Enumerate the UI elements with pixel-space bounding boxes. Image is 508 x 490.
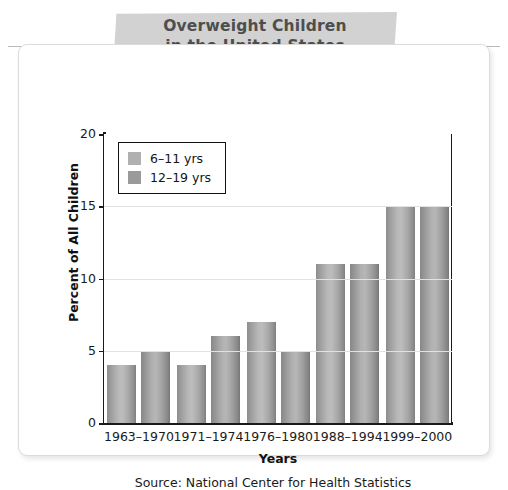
gridline-10	[104, 279, 452, 280]
chart-card: Percent of All Children 6–11 yrs 12–19 y…	[18, 44, 490, 456]
bar	[141, 351, 170, 423]
legend-item-6-11: 6–11 yrs	[128, 149, 211, 168]
legend-item-12-19: 12–19 yrs	[128, 168, 211, 187]
bar	[247, 322, 276, 423]
x-tick-label: 1988–1994	[313, 429, 383, 444]
x-tick-label: 1999–2000	[382, 429, 452, 444]
bar	[420, 206, 449, 423]
x-tick-label: 1976–1980	[243, 429, 313, 444]
y-tick-mark-0	[99, 423, 104, 425]
x-tick-label: 1963–1970	[104, 429, 174, 444]
bar	[177, 365, 206, 423]
x-axis-title: Years	[104, 451, 452, 466]
chart-legend: 6–11 yrs 12–19 yrs	[118, 142, 226, 194]
y-tick-mark-20	[99, 134, 104, 136]
legend-label-12-19: 12–19 yrs	[150, 170, 211, 185]
gridline-5	[104, 351, 452, 352]
y-tick-label-15: 15	[62, 198, 96, 213]
legend-swatch-12-19	[128, 171, 141, 184]
source-note: Source: National Center for Health Stati…	[37, 475, 508, 490]
legend-label-6-11: 6–11 yrs	[150, 151, 203, 166]
bar	[316, 264, 345, 423]
y-tick-label-20: 20	[62, 126, 96, 141]
y-tick-label-5: 5	[62, 343, 96, 358]
gridline-15	[104, 206, 452, 207]
y-tick-label-10: 10	[62, 271, 96, 286]
bar	[281, 351, 310, 423]
bar	[211, 336, 240, 423]
legend-swatch-6-11	[128, 152, 141, 165]
bar	[386, 206, 415, 423]
y-tick-label-0: 0	[62, 415, 96, 430]
chart-title-line-1: Overweight Children	[113, 16, 397, 36]
bar	[350, 264, 379, 423]
x-tick-label: 1971–1974	[174, 429, 244, 444]
bar	[107, 365, 136, 423]
y-axis-title: Percent of All Children	[66, 143, 81, 343]
